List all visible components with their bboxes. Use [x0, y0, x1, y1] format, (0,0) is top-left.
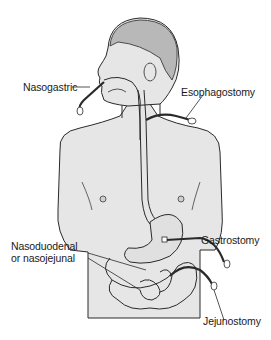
- label-esophagostomy: Esophagostomy: [181, 86, 255, 98]
- label-gastrostomy: Gastrostomy: [201, 234, 259, 246]
- label-nasogastric: Nasogastric: [23, 81, 77, 93]
- label-nasojejunal: or nasojejunal: [11, 252, 75, 264]
- anatomy-illustration: [0, 0, 271, 340]
- nasogastric-tube: [80, 82, 105, 110]
- label-nasoduodenal: Nasoduodenal: [11, 240, 78, 252]
- label-jejunostomy: Jejunostomy: [203, 315, 261, 327]
- feeding-tube-diagram: Nasogastric Esophagostomy Nasoduodenal o…: [0, 0, 271, 340]
- ear: [144, 63, 156, 81]
